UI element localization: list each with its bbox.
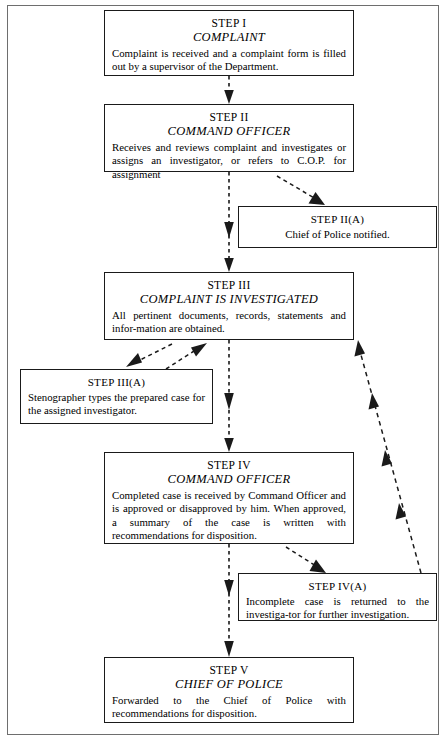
node-step-3a[interactable]: STEP III(A) Stenographer types the prepa… bbox=[20, 369, 213, 424]
node-step-3a-id: STEP III(A) bbox=[28, 375, 205, 389]
node-step-5-role: CHIEF OF POLICE bbox=[112, 677, 346, 692]
node-step-3-body: All pertinent documents, records, statem… bbox=[112, 309, 346, 336]
node-step-4a-body: Incomplete case is returned to the inves… bbox=[246, 595, 429, 622]
node-step-1-role: COMPLAINT bbox=[112, 30, 346, 45]
node-step-2a[interactable]: STEP II(A) Chief of Police notified. bbox=[238, 206, 437, 248]
node-step-5[interactable]: STEP V CHIEF OF POLICE Forwarded to the … bbox=[104, 657, 354, 723]
connector-step1-to-step2 bbox=[224, 76, 234, 104]
node-step-4a-id: STEP IV(A) bbox=[246, 579, 429, 593]
node-step-2-role: COMMAND OFFICER bbox=[112, 124, 346, 139]
node-step-4-role: COMMAND OFFICER bbox=[112, 472, 346, 487]
node-step-4-id: STEP IV bbox=[112, 458, 346, 472]
node-step-3-role: COMPLAINT IS INVESTIGATED bbox=[112, 292, 346, 307]
node-step-2-id: STEP II bbox=[112, 110, 346, 124]
connector-step4-to-step4a bbox=[286, 547, 326, 573]
node-step-2a-body: Chief of Police notified. bbox=[246, 228, 429, 241]
node-step-2a-id: STEP II(A) bbox=[246, 212, 429, 226]
connector-step3a-to-step3 bbox=[166, 343, 207, 369]
connector-step2-to-step3 bbox=[224, 172, 234, 272]
connector-step3-to-step3a bbox=[126, 344, 172, 367]
node-step-1[interactable]: STEP I COMPLAINT Complaint is received a… bbox=[104, 10, 354, 76]
node-step-5-id: STEP V bbox=[112, 663, 346, 677]
connector-step4a-to-step3-return bbox=[354, 340, 421, 573]
node-step-3-id: STEP III bbox=[112, 278, 346, 292]
node-step-3a-body: Stenographer types the prepared case for… bbox=[28, 391, 205, 418]
node-step-2[interactable]: STEP II COMMAND OFFICER Receives and rev… bbox=[104, 104, 354, 172]
node-step-1-id: STEP I bbox=[112, 16, 346, 30]
connector-step3-to-step4 bbox=[224, 340, 234, 452]
node-step-3[interactable]: STEP III COMPLAINT IS INVESTIGATED All p… bbox=[104, 272, 354, 340]
node-step-2-body: Receives and reviews complaint and inves… bbox=[112, 141, 346, 181]
node-step-4a[interactable]: STEP IV(A) Incomplete case is returned t… bbox=[238, 573, 437, 621]
node-step-4[interactable]: STEP IV COMMAND OFFICER Completed case i… bbox=[104, 452, 354, 544]
flowchart-page: STEP I COMPLAINT Complaint is received a… bbox=[0, 0, 448, 743]
node-step-4-body: Completed case is received by Command Of… bbox=[112, 489, 346, 543]
node-step-1-body: Complaint is received and a complaint fo… bbox=[112, 47, 346, 74]
connector-step4-to-step5 bbox=[224, 544, 234, 657]
node-step-5-body: Forwarded to the Chief of Police with re… bbox=[112, 694, 346, 721]
